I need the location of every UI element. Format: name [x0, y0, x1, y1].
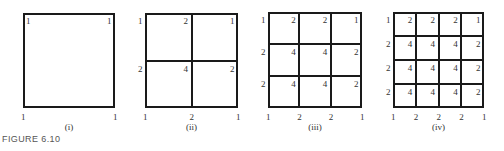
- grid-vertical-line: [298, 12, 300, 108]
- grid-square: [268, 12, 362, 108]
- grid-horizontal-line: [268, 43, 362, 45]
- node-weight: 4: [431, 64, 436, 73]
- node-weight: 1: [261, 16, 266, 25]
- node-weight: 2: [459, 113, 464, 122]
- node-weight: 4: [431, 40, 436, 49]
- node-weight: 2: [230, 65, 235, 74]
- node-weight: 2: [261, 80, 266, 89]
- panel-caption: (i): [49, 122, 89, 132]
- node-weight: 1: [354, 16, 359, 25]
- node-weight: 1: [113, 113, 118, 122]
- node-weight: 4: [408, 88, 413, 97]
- node-weight: 2: [138, 65, 143, 74]
- grid-vertical-line: [330, 12, 332, 108]
- node-weight: 2: [453, 16, 458, 25]
- node-weight: 1: [236, 113, 241, 122]
- node-weight: 4: [323, 48, 328, 57]
- node-weight: 2: [437, 113, 442, 122]
- panel-caption: (iii): [295, 122, 335, 132]
- node-weight: 2: [190, 113, 195, 122]
- grid-horizontal-line: [268, 75, 362, 77]
- node-weight: 1: [138, 17, 143, 26]
- node-weight: 4: [453, 64, 458, 73]
- grid-horizontal-line: [145, 60, 238, 62]
- node-weight: 2: [184, 17, 189, 26]
- node-weight: 2: [386, 88, 391, 97]
- node-weight: 2: [354, 48, 359, 57]
- node-weight: 1: [386, 16, 391, 25]
- node-weight: 2: [408, 16, 413, 25]
- node-weight: 1: [26, 17, 31, 26]
- node-weight: 2: [431, 16, 436, 25]
- node-weight: 4: [453, 88, 458, 97]
- node-weight: 2: [386, 64, 391, 73]
- node-weight: 1: [21, 113, 26, 122]
- node-weight: 2: [297, 113, 302, 122]
- panel-caption: (ii): [172, 122, 212, 132]
- panel-caption: (iv): [419, 122, 459, 132]
- grid-horizontal-line: [393, 83, 484, 85]
- node-weight: 1: [391, 113, 396, 122]
- node-weight: 1: [143, 113, 148, 122]
- grid-square: [23, 13, 115, 108]
- node-weight: 4: [408, 64, 413, 73]
- node-weight: 4: [431, 88, 436, 97]
- node-weight: 4: [291, 80, 296, 89]
- node-weight: 1: [266, 113, 271, 122]
- node-weight: 4: [184, 65, 189, 74]
- node-weight: 2: [476, 64, 481, 73]
- node-weight: 2: [291, 16, 296, 25]
- node-weight: 4: [408, 40, 413, 49]
- node-weight: 1: [230, 17, 235, 26]
- node-weight: 4: [291, 48, 296, 57]
- node-weight: 2: [323, 16, 328, 25]
- node-weight: 2: [386, 40, 391, 49]
- node-weight: 2: [476, 40, 481, 49]
- grid-horizontal-line: [393, 59, 484, 61]
- node-weight: 1: [476, 16, 481, 25]
- node-weight: 2: [329, 113, 334, 122]
- figure-label: FIGURE 6.10: [2, 134, 60, 144]
- node-weight: 1: [107, 17, 112, 26]
- node-weight: 4: [453, 40, 458, 49]
- node-weight: 1: [360, 113, 365, 122]
- node-weight: 2: [414, 113, 419, 122]
- node-weight: 2: [476, 88, 481, 97]
- node-weight: 2: [261, 48, 266, 57]
- node-weight: 4: [323, 80, 328, 89]
- node-weight: 1: [482, 113, 487, 122]
- node-weight: 2: [354, 80, 359, 89]
- grid-vertical-line: [460, 12, 462, 108]
